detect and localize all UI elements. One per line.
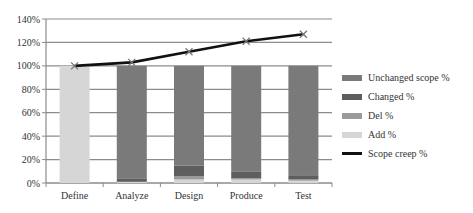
x-tick-label: Test xyxy=(295,190,312,201)
color-swatch-icon xyxy=(342,94,362,100)
legend-label: Scope creep % xyxy=(368,148,427,159)
legend-item: Del % xyxy=(342,106,450,125)
bar-segment xyxy=(174,66,204,166)
bar-segment xyxy=(174,176,204,180)
legend-label: Add % xyxy=(368,129,396,140)
legend-item: Add % xyxy=(342,125,450,144)
legend-item: Changed % xyxy=(342,87,450,106)
legend-label: Changed % xyxy=(368,91,414,102)
bar-segment xyxy=(231,179,261,183)
bar-segment xyxy=(231,178,261,179)
bar-segment xyxy=(60,66,90,183)
bar-segment xyxy=(174,165,204,176)
bar-segment xyxy=(117,66,147,178)
legend-label: Del % xyxy=(368,110,393,121)
y-tick-label: 20% xyxy=(22,154,40,165)
bar-segment xyxy=(231,66,261,171)
x-tick-label: Define xyxy=(61,190,89,201)
bar-segment xyxy=(288,66,318,176)
bar-segment xyxy=(231,171,261,178)
legend-item: Scope creep % xyxy=(342,144,450,163)
bar-segment xyxy=(117,178,147,182)
y-tick-label: 80% xyxy=(22,84,40,95)
y-tick-label: 140% xyxy=(17,14,40,25)
x-tick-label: Design xyxy=(175,190,203,201)
y-tick-label: 60% xyxy=(22,107,40,118)
bar-segment xyxy=(288,179,318,180)
scope-creep-line xyxy=(75,34,304,66)
color-swatch-icon xyxy=(342,113,362,119)
bar-segment xyxy=(288,176,318,180)
bar-segment xyxy=(117,182,147,183)
color-swatch-icon xyxy=(342,75,362,81)
color-swatch-icon xyxy=(342,132,362,138)
legend-label: Unchanged scope % xyxy=(368,72,450,83)
y-tick-label: 0% xyxy=(27,178,40,189)
line-swatch-icon xyxy=(342,152,362,155)
y-tick-label: 100% xyxy=(17,60,40,71)
y-tick-label: 120% xyxy=(17,37,40,48)
y-tick-label: 40% xyxy=(22,131,40,142)
bar-segment xyxy=(288,181,318,183)
bar-segment xyxy=(174,179,204,183)
legend-item: Unchanged scope % xyxy=(342,68,450,87)
x-tick-label: Produce xyxy=(230,190,263,201)
chart-legend: Unchanged scope %Changed %Del %Add %Scop… xyxy=(342,68,450,163)
x-tick-label: Analyze xyxy=(115,190,149,201)
